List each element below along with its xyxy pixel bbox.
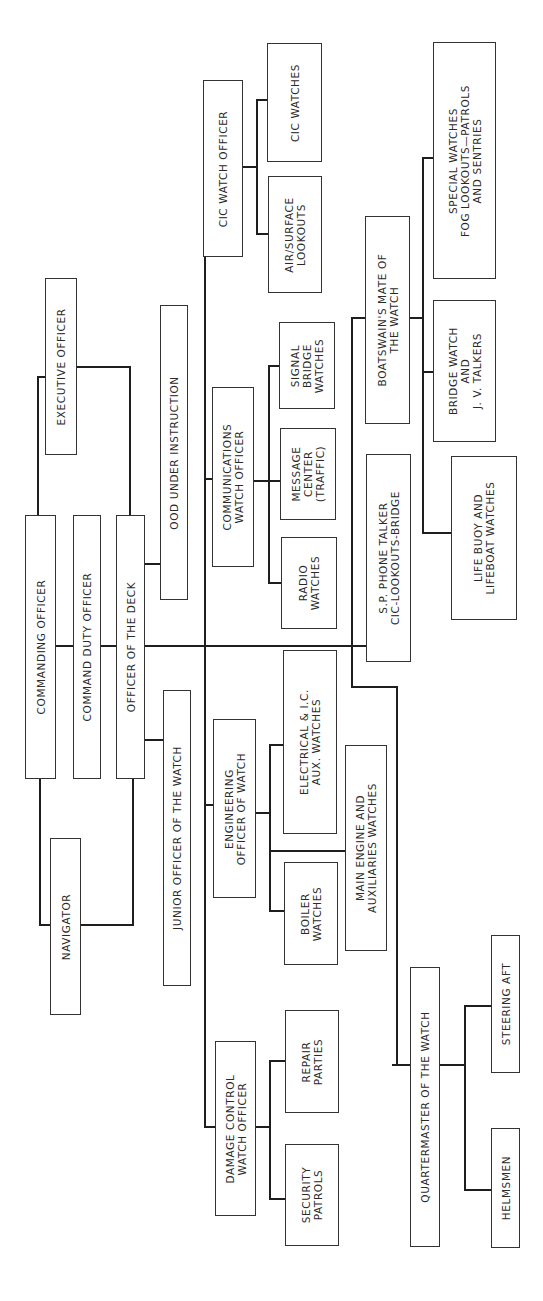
node-label: SECURITYPATROLS <box>300 1167 324 1223</box>
node-label-line: LIFEBOAT WATCHES <box>484 482 496 595</box>
node-navigator: NAVIGATOR <box>50 838 81 1015</box>
node-label-line: PARTIES <box>312 1038 324 1084</box>
node-commanding-officer: COMMANDING OFFICER <box>25 515 56 779</box>
node-label-line: HELMSMEN <box>500 1156 512 1220</box>
node-label: MAIN ENGINE ANDAUXILIARIES WATCHES <box>354 783 378 913</box>
node-label: BRIDGE WATCHANDJ. V. TALKERS <box>447 327 483 415</box>
connector-line <box>268 582 281 584</box>
connector-line <box>256 1126 270 1128</box>
node-label-line: SECURITY <box>300 1167 312 1223</box>
node-helmsmen: HELMSMEN <box>491 1128 520 1248</box>
connector-line <box>204 804 213 806</box>
connector-line <box>440 1064 464 1066</box>
node-label-line: WATCHES <box>311 886 323 941</box>
node-label-line: WATCH OFFICER <box>233 424 245 531</box>
connector-line <box>396 686 398 1066</box>
connector-line <box>351 317 353 687</box>
node-bridge-watch: BRIDGE WATCHANDJ. V. TALKERS <box>433 300 496 442</box>
node-label-line: ELECTRICAL & I.C. <box>298 689 310 795</box>
connector-line <box>145 563 160 565</box>
node-boiler-watches: BOILERWATCHES <box>284 862 338 965</box>
node-label-line: LOOKOUTS <box>295 197 307 272</box>
connector-line <box>464 1005 466 1190</box>
node-signal-bridge-watches: SIGNALBRIDGEWATCHES <box>279 322 335 409</box>
node-label-line: STEERING AFT <box>500 963 512 1046</box>
node-repair-parties: REPAIRPARTIES <box>285 1010 339 1113</box>
connector-line <box>254 480 280 482</box>
connector-line <box>100 645 116 647</box>
node-electrical-ic: ELECTRICAL & I.C.AUX. WATCHES <box>283 650 337 834</box>
connector-line <box>422 371 433 373</box>
connector-line <box>77 366 130 368</box>
connector-line <box>132 779 134 926</box>
node-label: COMMANDING OFFICER <box>35 580 47 715</box>
node-label-line: AIR/SURFACE <box>283 197 295 272</box>
node-label-line: BRIDGE <box>301 338 313 393</box>
node-label: ENGINEERINGOFFICER OF WATCH <box>223 752 247 864</box>
connector-line <box>269 850 345 852</box>
node-label-line: SIGNAL <box>289 338 301 393</box>
connector-line <box>81 924 134 926</box>
connector-line <box>256 99 258 234</box>
node-main-engine: MAIN ENGINE ANDAUXILIARIES WATCHES <box>345 745 387 951</box>
node-sp-phone-talker: S.P. PHONE TALKERCIC-LOOKOUTS-BRIDGE <box>366 454 411 662</box>
node-ood-under-instruction: OOD UNDER INSTRUCTION <box>160 305 188 600</box>
node-security-patrols: SECURITYPATROLS <box>285 1144 339 1246</box>
node-label-line: AND <box>459 327 471 415</box>
node-label-line: LIFE BUOY AND <box>472 482 484 595</box>
connector-line <box>392 1064 410 1066</box>
node-label-line: ENGINEERING <box>223 752 235 864</box>
node-command-duty-officer: COMMAND DUTY OFFICER <box>73 515 101 779</box>
connector-line <box>145 739 163 741</box>
node-label-line: COMMAND DUTY OFFICER <box>81 573 93 722</box>
node-label: S.P. PHONE TALKERCIC-LOOKOUTS-BRIDGE <box>377 491 401 625</box>
node-label-line: J. V. TALKERS <box>471 327 483 415</box>
node-label-line: FOG LOOKOUTS—PATROLS <box>459 84 471 236</box>
node-label: OOD UNDER INSTRUCTION <box>168 376 180 529</box>
node-radio-watches: RADIOWATCHES <box>281 537 337 629</box>
node-label-line: S.P. PHONE TALKER <box>377 491 389 625</box>
node-label: CIC WATCH OFFICER <box>217 110 229 227</box>
connector-line <box>56 645 73 647</box>
node-label-line: COMMUNICATIONS <box>221 424 233 531</box>
node-steering-aft: STEERING AFT <box>491 935 520 1073</box>
connector-line <box>351 317 365 319</box>
connector-line <box>145 645 370 647</box>
node-label-line: AUXILIARIES WATCHES <box>366 783 378 913</box>
node-label-line: CIC-LOOKOUTS-BRIDGE <box>389 491 401 625</box>
node-cic-watches: CIC WATCHES <box>267 43 322 162</box>
node-life-buoy: LIFE BUOY ANDLIFEBOAT WATCHES <box>451 456 517 620</box>
node-label-line: OFFICER OF THE DECK <box>125 582 137 712</box>
connector-line <box>464 1189 491 1191</box>
node-label-line: COMMANDING OFFICER <box>35 580 47 715</box>
node-label: QUARTERMASTER OF THE WATCH <box>419 1011 431 1202</box>
node-label: BOATSWAIN'S MATE OFTHE WATCH <box>376 254 400 387</box>
connector-line <box>268 365 270 583</box>
connector-line <box>204 478 212 480</box>
node-air-surface-lookouts: AIR/SURFACELOOKOUTS <box>268 176 322 293</box>
node-label: LIFE BUOY ANDLIFEBOAT WATCHES <box>472 482 496 595</box>
connector-line <box>39 779 41 925</box>
node-damage-control: DAMAGE CONTROLWATCH OFFICER <box>215 1041 256 1216</box>
node-label-line: QUARTERMASTER OF THE WATCH <box>419 1011 431 1202</box>
node-label-line: JUNIOR OFFICER OF THE WATCH <box>171 746 183 930</box>
node-label-line: OFFICER OF WATCH <box>235 752 247 864</box>
connector-line <box>269 744 271 911</box>
node-label-line: CENTER <box>302 446 314 503</box>
node-label-line: BOATSWAIN'S MATE OF <box>376 254 388 387</box>
node-label: SPECIAL WATCHESFOG LOOKOUTS—PATROLSAND S… <box>447 84 483 236</box>
node-junior-officer-of-the-watch: JUNIOR OFFICER OF THE WATCH <box>163 690 191 986</box>
connector-line <box>256 233 268 235</box>
node-label: CIC WATCHES <box>289 63 301 141</box>
connector-line <box>256 99 267 101</box>
node-message-center: MESSAGECENTER(TRAFFIC) <box>280 428 336 520</box>
node-engineering-officer: ENGINEERINGOFFICER OF WATCH <box>213 719 256 898</box>
node-label-line: REPAIR <box>300 1038 312 1084</box>
node-label: REPAIRPARTIES <box>300 1038 324 1084</box>
node-label-line: AUX. WATCHES <box>310 689 322 795</box>
connector-line <box>39 924 50 926</box>
node-label-line: WATCHES <box>309 556 321 611</box>
node-label: COMMAND DUTY OFFICER <box>81 573 93 722</box>
connector-line <box>268 365 279 367</box>
connector-line <box>204 1126 215 1128</box>
